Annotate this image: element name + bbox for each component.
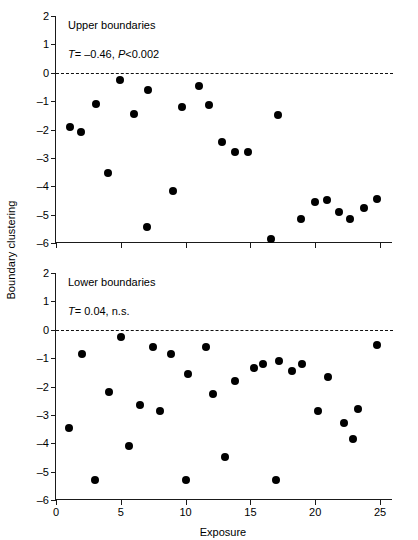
data-point [373,195,381,203]
lower-y-tick-mark-7 [51,472,56,473]
data-point [221,453,229,461]
data-point [298,360,306,368]
y-axis-label-container: Boundary clustering [0,0,22,500]
lower-y-tick-mark-4 [51,387,56,388]
data-point [117,333,125,341]
upper-panel-title: Upper boundaries [68,19,155,31]
data-point [314,407,322,415]
data-point [297,215,305,223]
upper-y-tick-mark-3 [51,101,56,102]
upper-stat-p-value: <0.002 [125,48,159,60]
data-point [340,419,348,427]
data-point [169,187,177,195]
data-point [149,343,157,351]
lower-y-tick-mark-5 [51,415,56,416]
upper-y-tick-label-8: –6 [37,238,49,249]
data-point [116,76,124,84]
data-point [104,169,112,177]
lower-y-tick-label-4: –2 [37,381,49,392]
data-point [125,442,133,450]
upper-y-tick-mark-0 [51,16,56,17]
lower-x-tick-label-5: 25 [374,507,386,518]
data-point [144,86,152,94]
upper-y-tick-mark-4 [51,130,56,131]
upper-y-tick-mark-7 [51,215,56,216]
lower-stat-tau-value: = 0.04, n.s. [75,305,130,317]
lower-y-tick-label-2: 0 [43,324,49,335]
upper-y-tick-label-6: –4 [37,181,49,192]
data-point [218,138,226,146]
lower-panel-statistic: T= 0.04, n.s. [68,305,129,317]
lower-zero-reference-line [56,330,393,331]
upper-y-tick-label-4: –2 [37,124,49,135]
lower-y-tick-mark-3 [51,358,56,359]
data-point [105,388,113,396]
data-point [360,204,368,212]
lower-x-tick-mark-3 [250,500,251,505]
upper-y-tick-label-1: 1 [43,39,49,50]
data-point [259,360,267,368]
data-point [182,476,190,484]
data-point [311,198,319,206]
upper-y-tick-mark-2 [51,73,56,74]
lower-panel-title: Lower boundaries [68,276,155,288]
upper-x-tick-mark-2 [186,243,187,248]
data-point [136,401,144,409]
lower-x-tick-mark-0 [56,500,57,505]
data-point [130,110,138,118]
upper-y-tick-mark-1 [51,44,56,45]
x-axis-label: Exposure [200,526,246,538]
data-point [323,196,331,204]
data-point [91,476,99,484]
lower-y-tick-label-1: 1 [43,296,49,307]
lower-y-tick-mark-0 [51,273,56,274]
lower-y-tick-mark-1 [51,301,56,302]
lower-x-tick-mark-2 [186,500,187,505]
lower-y-tick-label-8: –6 [37,495,49,506]
lower-x-tick-label-0: 0 [53,507,59,518]
data-point [274,111,282,119]
upper-x-tick-mark-0 [56,243,57,248]
data-point [209,390,217,398]
upper-y-tick-label-2: 0 [43,67,49,78]
upper-stat-tau-symbol: T [68,48,75,60]
data-point [195,82,203,90]
data-point [267,235,275,243]
upper-y-tick-label-5: –3 [37,152,49,163]
data-point [335,208,343,216]
lower-stat-tau-symbol: T [68,305,75,317]
lower-x-tick-mark-1 [121,500,122,505]
lower-x-tick-label-4: 20 [309,507,321,518]
data-point [66,123,74,131]
lower-plot-area: Lower boundaries T= 0.04, n.s. 210–1–2–3… [55,273,392,500]
upper-x-tick-mark-3 [250,243,251,248]
lower-y-tick-mark-6 [51,443,56,444]
data-point [373,341,381,349]
lower-y-tick-label-3: –1 [37,353,49,364]
data-point [202,343,210,351]
upper-y-tick-mark-5 [51,158,56,159]
data-point [244,148,252,156]
lower-x-tick-mark-5 [380,500,381,505]
figure-container: Boundary clustering Upper boundaries T= … [0,0,418,540]
data-point [354,405,362,413]
data-point [77,128,85,136]
data-point [143,223,151,231]
upper-x-tick-mark-1 [121,243,122,248]
data-point [178,103,186,111]
data-point [231,377,239,385]
upper-zero-reference-line [56,73,393,74]
upper-y-tick-label-3: –1 [37,96,49,107]
data-point [272,476,280,484]
upper-y-tick-mark-6 [51,186,56,187]
data-point [231,148,239,156]
lower-y-tick-mark-2 [51,330,56,331]
upper-panel-statistic: T= –0.46, P<0.002 [68,48,159,60]
lower-y-tick-label-0: 2 [43,268,49,279]
y-axis-label: Boundary clustering [5,200,17,299]
lower-y-tick-label-6: –4 [37,438,49,449]
upper-x-tick-mark-4 [315,243,316,248]
lower-y-tick-label-5: –3 [37,409,49,420]
lower-x-tick-label-3: 15 [244,507,256,518]
data-point [275,357,283,365]
